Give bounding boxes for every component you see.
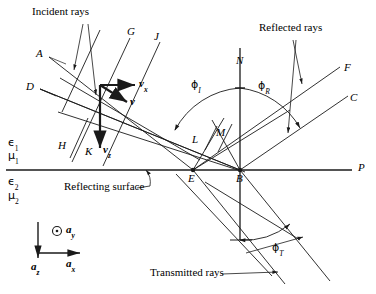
ray-label-P: P <box>358 162 365 173</box>
medium2-permeability-label: μ2 <box>8 190 19 204</box>
vector-label-v: v <box>130 96 135 107</box>
angle-label-phi-T: ϕT <box>272 242 283 256</box>
vector-label-vz: vz <box>103 144 111 158</box>
wavefront-line-group <box>62 30 160 166</box>
angle-arc-incidence-reflection <box>175 88 300 130</box>
ray-label-H: H <box>58 140 66 151</box>
optics-reflection-refraction-figure: Incident rays Reflected rays Reflecting … <box>0 0 376 294</box>
ray-label-N: N <box>236 55 243 66</box>
reflected-rays-label: Reflected rays <box>259 22 322 33</box>
axis-label-ax: ax <box>66 258 75 272</box>
reflecting-surface-label: Reflecting surface <box>64 181 144 192</box>
reflected-wavefront-band <box>193 110 290 170</box>
angle-label-phi-I: ϕI <box>191 79 201 93</box>
normal-line-N <box>235 48 245 240</box>
ray-label-K: K <box>85 146 92 157</box>
axis-label-az: az <box>31 261 39 275</box>
vector-label-vx: vx <box>139 78 148 92</box>
ray-label-G: G <box>127 26 135 37</box>
axis-label-ay: ay <box>66 224 75 238</box>
medium2-permittivity-label: ϵ2 <box>8 176 19 190</box>
ray-label-B: B <box>236 173 243 184</box>
ray-label-D: D <box>26 81 34 92</box>
transmitted-rays-label: Transmitted rays <box>150 267 224 278</box>
medium1-permeability-label: μ1 <box>8 150 19 164</box>
circle-dot-out-of-page-icon <box>53 227 62 236</box>
reflected-rays-leader <box>288 40 302 133</box>
ray-label-C: C <box>350 92 357 103</box>
incident-rays-label: Incident rays <box>32 6 89 17</box>
ray-label-J: J <box>154 31 159 42</box>
ray-label-L: L <box>192 134 198 145</box>
ray-label-E: E <box>188 173 195 184</box>
figure-line-art <box>0 0 376 294</box>
ray-label-F: F <box>344 62 351 73</box>
ray-label-M: M <box>216 127 225 138</box>
ray-label-A: A <box>36 48 43 59</box>
angle-label-phi-R: ϕR <box>258 80 270 94</box>
incident-rays-leader <box>74 24 96 95</box>
reflected-ray-group <box>193 67 348 170</box>
